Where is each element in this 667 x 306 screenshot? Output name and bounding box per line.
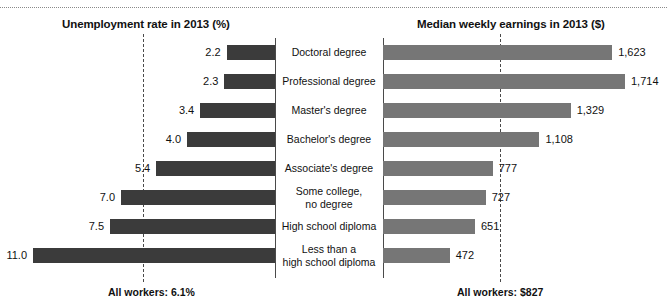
unemployment-bar <box>200 103 275 118</box>
earnings-value-label: 1,714 <box>631 74 659 89</box>
unemployment-value-label: 3.4 <box>154 103 194 118</box>
earnings-bar <box>383 161 493 176</box>
unemployment-bar <box>121 190 275 205</box>
unemployment-value-label: 2.3 <box>178 74 218 89</box>
chart-row: 2.3Professional degree1,714 <box>0 67 667 96</box>
category-label: Less than ahigh school diploma <box>279 241 379 270</box>
earnings-value-label: 1,623 <box>618 45 646 60</box>
category-label: High school diploma <box>279 212 379 241</box>
earnings-bar <box>383 132 539 147</box>
unemployment-value-label: 4.0 <box>141 132 181 147</box>
earnings-value-label: 651 <box>481 219 499 234</box>
earnings-value-label: 1,329 <box>577 103 605 118</box>
right-panel-title: Median weekly earnings in 2013 ($) <box>417 18 605 30</box>
earnings-value-label: 1,108 <box>545 132 573 147</box>
chart-figure: Unemployment rate in 2013 (%) Median wee… <box>0 0 667 306</box>
chart-row: 3.4Master's degree1,329 <box>0 96 667 125</box>
category-label: Professional degree <box>279 67 379 96</box>
earnings-bar <box>383 219 475 234</box>
earnings-value-label: 727 <box>492 190 510 205</box>
earnings-bar <box>383 45 612 60</box>
chart-row: 2.2Doctoral degree1,623 <box>0 38 667 67</box>
earnings-bar <box>383 74 625 89</box>
unemployment-value-label: 5.4 <box>110 161 150 176</box>
unemployment-bar <box>224 74 275 89</box>
earnings-value-label: 472 <box>456 248 474 263</box>
right-footnote: All workers: $827 <box>457 286 543 298</box>
unemployment-bar <box>227 45 275 60</box>
unemployment-bar <box>110 219 275 234</box>
category-label: Some college,no degree <box>279 183 379 212</box>
chart-row: 7.5High school diploma651 <box>0 212 667 241</box>
category-label: Associate's degree <box>279 154 379 183</box>
chart-row: 7.0Some college,no degree727 <box>0 183 667 212</box>
unemployment-bar <box>33 248 275 263</box>
chart-row: 5.4Associate's degree777 <box>0 154 667 183</box>
chart-row: 4.0Bachelor's degree1,108 <box>0 125 667 154</box>
unemployment-value-label: 11.0 <box>0 248 27 263</box>
unemployment-value-label: 2.2 <box>181 45 221 60</box>
unemployment-value-label: 7.0 <box>75 190 115 205</box>
earnings-bar <box>383 103 571 118</box>
left-panel-title: Unemployment rate in 2013 (%) <box>62 18 230 30</box>
unemployment-bar <box>187 132 275 147</box>
unemployment-value-label: 7.5 <box>64 219 104 234</box>
earnings-value-label: 777 <box>499 161 517 176</box>
category-label: Doctoral degree <box>279 38 379 67</box>
unemployment-bar <box>156 161 275 176</box>
top-divider-rule <box>0 7 667 8</box>
earnings-bar <box>383 248 450 263</box>
category-label: Bachelor's degree <box>279 125 379 154</box>
earnings-bar <box>383 190 486 205</box>
left-footnote: All workers: 6.1% <box>108 286 195 298</box>
category-label: Master's degree <box>279 96 379 125</box>
chart-row: 11.0Less than ahigh school diploma472 <box>0 241 667 270</box>
